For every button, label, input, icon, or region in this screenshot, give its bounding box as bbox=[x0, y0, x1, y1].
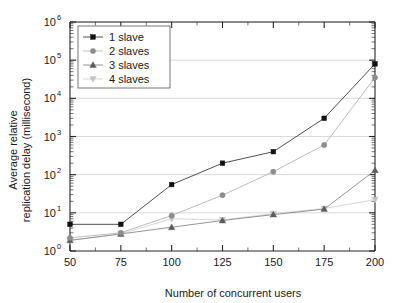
y-tick-labels: 100101102103104105106 bbox=[44, 13, 61, 257]
y-tick-label: 10 bbox=[44, 207, 56, 219]
y-tick-label: 10 bbox=[44, 131, 56, 143]
data-point-circle bbox=[169, 213, 174, 218]
data-point-circle bbox=[118, 230, 123, 235]
data-point-circle bbox=[322, 142, 327, 147]
x-axis-title: Number of concurrent users bbox=[165, 287, 302, 299]
data-point-circle bbox=[67, 235, 72, 240]
y-axis-title-line2: replication delay (millisecond) bbox=[20, 78, 32, 222]
data-point-circle bbox=[90, 48, 95, 53]
data-point-square bbox=[322, 116, 327, 121]
y-tick-label: 10 bbox=[44, 169, 56, 181]
series-2-slaves bbox=[67, 75, 377, 241]
data-point-square bbox=[271, 149, 276, 154]
data-point-circle bbox=[220, 193, 225, 198]
x-tick-label: 125 bbox=[213, 256, 231, 268]
x-tick-label: 75 bbox=[115, 256, 127, 268]
y-tick-label: 10 bbox=[44, 16, 56, 28]
series-line bbox=[70, 78, 375, 238]
data-point-circle bbox=[271, 169, 276, 174]
legend-label: 3 slaves bbox=[109, 59, 150, 71]
series-group bbox=[67, 62, 379, 244]
y-tick-label: 10 bbox=[44, 92, 56, 104]
y-tick-exponent: 3 bbox=[57, 128, 61, 137]
data-point-square bbox=[68, 222, 73, 227]
data-point-square bbox=[169, 182, 174, 187]
y-tick-exponent: 0 bbox=[57, 242, 61, 251]
y-tick-label: 10 bbox=[44, 54, 56, 66]
log-line-chart: 100101102103104105106 507510012515017520… bbox=[0, 0, 398, 303]
data-point-square bbox=[220, 161, 225, 166]
series-line bbox=[70, 170, 375, 240]
series-3-slaves bbox=[67, 167, 379, 243]
y-tick-exponent: 5 bbox=[57, 51, 61, 60]
y-tick-exponent: 4 bbox=[57, 89, 61, 98]
data-point-square bbox=[119, 222, 124, 227]
data-point-square bbox=[373, 62, 378, 67]
x-tick-label: 150 bbox=[264, 256, 282, 268]
x-tick-labels: 5075100125150175200 bbox=[64, 256, 384, 268]
x-tick-label: 100 bbox=[162, 256, 180, 268]
legend-label: 2 slaves bbox=[109, 45, 150, 57]
data-point-square bbox=[91, 35, 96, 40]
data-point-triangle-up bbox=[372, 167, 379, 173]
legend-label: 1 slave bbox=[109, 31, 144, 43]
x-tick-label: 200 bbox=[366, 256, 384, 268]
y-tick-exponent: 6 bbox=[57, 13, 61, 22]
x-tick-label: 175 bbox=[315, 256, 333, 268]
legend-label: 4 slaves bbox=[109, 73, 150, 85]
y-tick-label: 10 bbox=[44, 245, 56, 257]
y-tick-exponent: 1 bbox=[57, 204, 61, 213]
y-tick-exponent: 2 bbox=[57, 166, 61, 175]
y-axis-title-line1: Average relative bbox=[7, 110, 19, 189]
chart-figure: 100101102103104105106 507510012515017520… bbox=[0, 0, 398, 303]
x-tick-label: 50 bbox=[64, 256, 76, 268]
legend: 1 slave2 slaves3 slaves4 slaves bbox=[78, 26, 170, 88]
data-point-circle bbox=[372, 75, 377, 80]
